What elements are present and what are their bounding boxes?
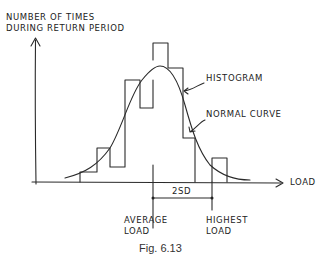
- normal-curve-label: NORMAL CURVE: [206, 109, 282, 119]
- average-load-label-line2: LOAD: [124, 226, 150, 236]
- histogram-label: HISTOGRAM: [206, 73, 263, 83]
- highest-load-label-line1: HIGHEST: [206, 215, 248, 225]
- y-axis-label-line2: DURING RETURN PERIOD: [6, 23, 125, 33]
- x-axis-label: LOAD: [290, 177, 316, 187]
- highest-load-label-line2: LOAD: [206, 226, 232, 236]
- histogram-bars: [80, 43, 227, 182]
- y-axis: [31, 38, 40, 184]
- histogram-diagram: NUMBER OF TIMES DURING RETURN PERIOD HIS…: [0, 0, 330, 263]
- normal-curve: [65, 66, 250, 180]
- average-load-label-line1: AVERAGE: [124, 215, 168, 225]
- two-sd-label: 2SD: [172, 186, 191, 196]
- figure-caption: Fig. 6.13: [139, 242, 182, 254]
- histogram-leader-arrow: [184, 83, 204, 94]
- y-axis-label-line1: NUMBER OF TIMES: [6, 12, 95, 22]
